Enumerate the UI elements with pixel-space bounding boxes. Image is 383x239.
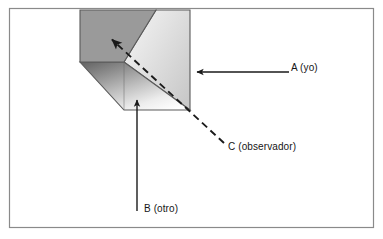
label-b-otro: B (otro) [144, 204, 178, 214]
label-a-yo: A (yo) [291, 63, 318, 73]
outer-border [10, 9, 374, 228]
figure-container: A (yo) C (observador) B (otro) [0, 0, 383, 239]
label-c-observador: C (observador) [228, 142, 296, 152]
diagram-canvas [0, 0, 383, 239]
